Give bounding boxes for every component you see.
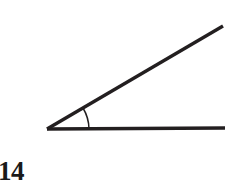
- angle-diagram-figure: 14: [0, 0, 249, 180]
- figure-number-label: 14: [0, 158, 24, 180]
- horizontal-ray: [47, 128, 225, 129]
- diagonal-ray: [47, 26, 223, 129]
- angle-arc-marker: [83, 108, 89, 129]
- angle-diagram-canvas: [0, 0, 249, 180]
